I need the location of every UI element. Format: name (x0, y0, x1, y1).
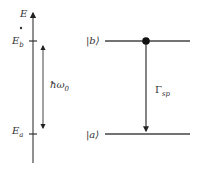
tick-lower-label: Ea (11, 125, 24, 139)
transition-energy-arrow: ħω0 (43, 46, 70, 128)
marker-dot (20, 27, 22, 29)
transition-energy-label: ħω0 (50, 79, 70, 93)
decay-rate-label: Γsp (155, 84, 171, 98)
decay-arrow: Γsp (146, 44, 171, 131)
energy-axis: E Eb Ea (11, 8, 37, 163)
tick-upper-label: Eb (11, 35, 24, 49)
upper-level-label: |b⟩ (86, 35, 100, 47)
lower-level-label: |a⟩ (86, 129, 99, 141)
excited-state-dot (142, 37, 150, 45)
two-level-atom-diagram: E Eb Ea ħω0 |b⟩ |a⟩ Γsp (0, 0, 200, 170)
lower-level: |a⟩ (86, 129, 190, 141)
upper-level: |b⟩ (86, 35, 190, 47)
energy-axis-label: E (19, 8, 28, 19)
